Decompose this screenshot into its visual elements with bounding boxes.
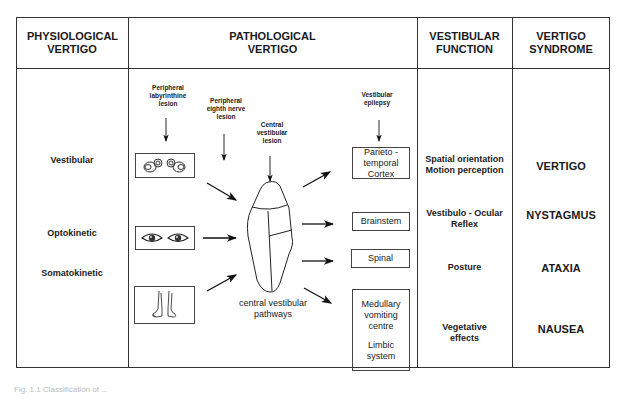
target-medullary-limbic: Medullary vomiting centre Limbic system [352,289,410,371]
figure-caption: Fig. 1.1 Classification of ... [14,385,108,394]
function-posture: Posture [417,262,512,273]
function-vestibulo-ocular-reflex: Vestibulo - Ocular Reflex [417,208,512,230]
function-spatial-orientation: Spatial orientation Motion perception [417,154,512,176]
central-pathways-shape [247,182,292,293]
syndrome-nystagmus: NYSTAGMUS [512,209,610,221]
target-parieto-temporal-cortex: Parieto - temporal Cortex [352,147,410,179]
syndrome-nausea: NAUSEA [512,323,610,335]
diagram-arrows [0,0,624,399]
function-vegetative-effects: Vegetative effects [417,322,512,344]
target-spinal: Spinal [351,249,410,268]
syndrome-vertigo: VERTIGO [512,160,610,172]
syndrome-ataxia: ATAXIA [512,262,610,274]
central-pathways-label: central vestibular pathways [238,298,308,320]
target-brainstem: Brainstem [352,212,410,231]
